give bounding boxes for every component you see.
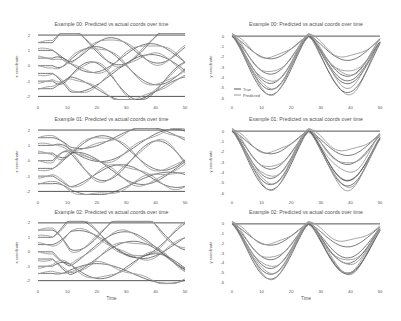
panel-p01y: Example 01: Predicted vs actual coords o… [208,116,383,205]
y-tick-label: 0 [222,129,225,134]
x-tick-label: 30 [318,200,323,205]
x-tick-label: 0 [231,289,234,294]
y-tick-label: -5 [220,85,224,90]
panel-title: Example 02: Predicted vs actual coords o… [249,209,363,215]
panel-p01x: Example 01: Predicted vs actual coords o… [14,116,188,205]
true-line [232,36,380,95]
panel-title: Example 01: Predicted vs actual coords o… [55,116,169,122]
y-axis-label: x coordinate [14,241,19,264]
predicted-line [38,46,185,73]
y-tick-label: -4 [220,260,224,265]
figure: Example 00: Predicted vs actual coords o… [0,0,401,321]
panel-p02y: Example 02: Predicted vs actual coords o… [208,209,383,301]
y-axis-label: y coordinate [208,55,213,78]
y-tick-label: -6 [220,280,224,285]
panel-p00x: Example 00: Predicted vs actual coords o… [14,21,188,110]
y-tick-label: -1 [26,79,30,84]
y-tick-label: 1 [28,235,31,240]
x-tick-label: 20 [94,200,99,205]
y-tick-label: 2 [28,33,31,38]
panel-p02x: Example 02: Predicted vs actual coords o… [14,209,188,301]
true-line [232,224,380,279]
y-tick-label: -2 [220,241,224,246]
y-tick-label: 1 [28,48,31,53]
y-tick-label: -6 [220,96,224,101]
x-tick-label: 0 [37,289,40,294]
x-tick-label: 30 [318,289,323,294]
x-tick-label: 10 [259,105,264,110]
x-tick-label: 20 [289,289,294,294]
x-tick-label: 20 [289,200,294,205]
legend-label: Predicted [243,93,260,98]
x-tick-label: 50 [183,200,188,205]
x-tick-label: 50 [378,289,383,294]
predicted-line [38,221,185,255]
true-line [38,136,185,171]
y-tick-label: -5 [220,270,224,275]
legend-label: True [243,87,252,92]
x-tick-label: 50 [378,200,383,205]
x-tick-label: 10 [65,200,70,205]
true-line [232,36,380,83]
x-tick-label: 50 [378,105,383,110]
y-axis-label: y coordinate [208,150,213,173]
y-tick-label: 2 [28,220,31,225]
y-tick-label: -4 [220,170,224,175]
x-tick-label: 40 [153,105,158,110]
x-tick-label: 50 [183,105,188,110]
panel-title: Example 00: Predicted vs actual coords o… [55,21,169,27]
y-axis-label: y coordinate [208,241,213,264]
y-axis-label: x coordinate [14,55,19,78]
y-tick-label: -3 [220,160,224,165]
x-tick-label: 30 [318,105,323,110]
true-line [232,224,380,260]
y-tick-label: 2 [28,128,31,133]
true-line [38,232,185,269]
panel-p00y: Example 00: Predicted vs actual coords o… [208,21,383,110]
x-tick-label: 30 [124,289,129,294]
panel-title: Example 01: Predicted vs actual coords o… [249,116,363,122]
y-tick-label: 0 [222,221,225,226]
y-tick-label: -1 [26,174,30,179]
x-tick-label: 50 [183,289,188,294]
y-tick-label: -4 [220,75,224,80]
x-tick-label: 0 [231,200,234,205]
y-tick-label: -2 [26,278,30,283]
y-tick-label: 0 [28,249,31,254]
x-tick-label: 40 [348,105,353,110]
panel-title: Example 00: Predicted vs actual coords o… [249,21,363,27]
x-tick-label: 20 [289,105,294,110]
y-tick-label: -1 [220,231,224,236]
legend: TruePredicted [234,87,260,98]
x-tick-label: 40 [153,200,158,205]
x-tick-label: 10 [259,289,264,294]
panel-title: Example 02: Predicted vs actual coords o… [55,209,169,215]
true-line [232,131,380,169]
y-tick-label: 1 [28,143,31,148]
y-tick-label: -2 [220,54,224,59]
y-tick-label: -3 [220,65,224,70]
y-tick-label: 0 [222,34,225,39]
x-axis-label: Time [107,296,117,301]
x-tick-label: 0 [37,105,40,110]
y-tick-label: -2 [220,149,224,154]
x-tick-label: 20 [94,105,99,110]
predicted-line [232,37,380,96]
y-tick-label: 0 [28,63,31,68]
x-tick-label: 10 [259,200,264,205]
y-tick-label: -2 [26,94,30,99]
x-tick-label: 10 [65,105,70,110]
true-line [38,129,185,161]
x-axis-label: Time [301,296,311,301]
y-tick-label: -1 [220,44,224,49]
y-tick-label: -6 [220,191,224,196]
x-tick-label: 0 [37,200,40,205]
x-tick-label: 10 [65,289,70,294]
x-tick-label: 40 [153,289,158,294]
y-tick-label: -5 [220,180,224,185]
x-tick-label: 40 [348,200,353,205]
y-tick-label: -1 [26,264,30,269]
true-line [38,34,185,65]
x-tick-label: 20 [94,289,99,294]
x-tick-label: 30 [124,105,129,110]
